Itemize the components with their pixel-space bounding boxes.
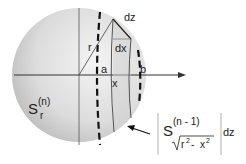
label-r: r xyxy=(88,41,92,53)
label-a: a xyxy=(101,63,108,75)
formula-sup: (n - 1) xyxy=(173,116,200,127)
formula-dz: dz xyxy=(223,126,235,138)
sphere-label-sup: (n) xyxy=(38,96,50,107)
axis-arrowhead xyxy=(178,72,186,78)
pointer-arrowhead xyxy=(127,125,135,131)
formula-sqrt-x-exp: 2 xyxy=(206,137,210,144)
formula-sqrt-r: r xyxy=(181,139,185,150)
label-x: x xyxy=(112,77,118,89)
sphere-diagram: r a b x dx dz S (n) r S (n - 1) r 2 - x … xyxy=(0,0,246,164)
formula-sqrt-x: x xyxy=(200,139,205,150)
label-dx: dx xyxy=(115,42,127,54)
pointer-arrow-line xyxy=(132,128,150,134)
formula-S: S xyxy=(163,122,173,139)
formula-sqrt-r-exp: 2 xyxy=(186,137,190,144)
formula-minus: - xyxy=(191,139,194,150)
sphere-label-S: S xyxy=(28,100,38,117)
label-dz: dz xyxy=(124,11,136,23)
label-b: b xyxy=(140,63,146,75)
